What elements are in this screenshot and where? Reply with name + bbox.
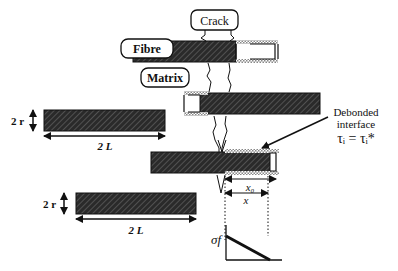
svg-text:x₀: x₀	[245, 181, 255, 193]
svg-text:2 L: 2 L	[128, 224, 144, 236]
debond-pointer-arrow	[262, 117, 328, 148]
crack-wall-left	[207, 63, 211, 92]
fibre-label: Fibre	[121, 39, 173, 58]
reference-fibre-1: 2 r 2 L	[11, 110, 165, 152]
fibre-pullout-diagram: Crack Fibre Matrix 2 r 2 L	[0, 0, 398, 271]
crack-label: Crack	[191, 10, 238, 41]
fibre-stage-2	[184, 91, 320, 116]
fibre-bar	[151, 152, 270, 173]
svg-text:interface: interface	[337, 118, 376, 130]
reference-fibre-2: 2 r 2 L	[43, 193, 196, 236]
svg-text:Debonded: Debonded	[333, 106, 379, 118]
svg-text:2 L: 2 L	[97, 140, 113, 152]
crack-tip	[217, 175, 225, 193]
fibre-stage-3	[151, 140, 279, 193]
debonded-interface-label: Debonded interface τᵢ = τᵢ*	[333, 106, 379, 146]
svg-text:σf: σf	[211, 232, 223, 247]
matrix-label: Matrix	[141, 68, 189, 87]
svg-text:τᵢ = τᵢ*: τᵢ = τᵢ*	[337, 131, 375, 146]
stress-decay-line	[226, 236, 270, 260]
crack-wall-right	[222, 116, 227, 152]
svg-text:x: x	[243, 194, 249, 206]
svg-text:2 r: 2 r	[43, 198, 56, 210]
crack-wall-left	[213, 116, 219, 152]
svg-text:2 r: 2 r	[11, 115, 24, 127]
stress-profile-plot: σf	[211, 225, 282, 260]
fibre-bar	[200, 93, 320, 114]
svg-text:Crack: Crack	[200, 14, 229, 28]
crack-wall-right	[228, 63, 231, 92]
svg-text:Matrix: Matrix	[147, 71, 183, 85]
svg-text:Fibre: Fibre	[133, 42, 161, 56]
